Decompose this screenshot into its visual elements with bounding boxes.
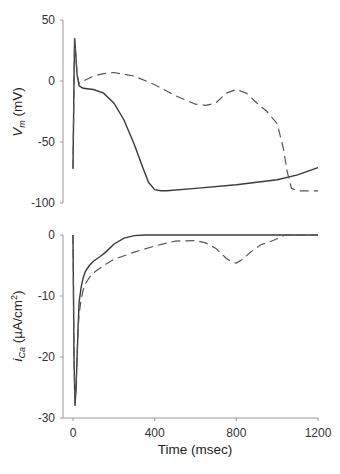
bottom-y-ticks: 0-10-20-30: [38, 228, 63, 425]
series-solid: [73, 38, 318, 191]
bottom-x-ticks: 04008001200: [70, 418, 332, 440]
y-tick-label: -50: [38, 135, 56, 149]
x-axis-label: Time (msec): [158, 442, 233, 457]
series-solid: [73, 235, 318, 406]
top-y-ticks: 500-50-100: [31, 13, 63, 210]
y-tick-label: -10: [38, 289, 56, 303]
x-tick-label: 800: [226, 426, 246, 440]
y-tick-label: 0: [48, 228, 55, 242]
bottom-y-axis-label: iCa (µA/cm2): [9, 291, 27, 362]
series-dashed: [73, 38, 318, 191]
x-tick-label: 400: [145, 426, 165, 440]
top-y-axis-label: Vm (mV): [10, 87, 27, 137]
y-tick-label: 0: [48, 74, 55, 88]
y-tick-label: -30: [38, 411, 56, 425]
y-tick-label: -100: [31, 196, 55, 210]
x-tick-label: 0: [70, 426, 77, 440]
action-potential-chart: 500-50-100 Vm (mV) 0-10-20-30 0400800120…: [0, 0, 340, 474]
y-tick-label: 50: [42, 13, 56, 27]
x-tick-label: 1200: [305, 426, 332, 440]
series-dashed: [73, 235, 318, 406]
bottom-series: [73, 235, 318, 406]
y-tick-label: -20: [38, 350, 56, 364]
top-series: [73, 38, 318, 191]
